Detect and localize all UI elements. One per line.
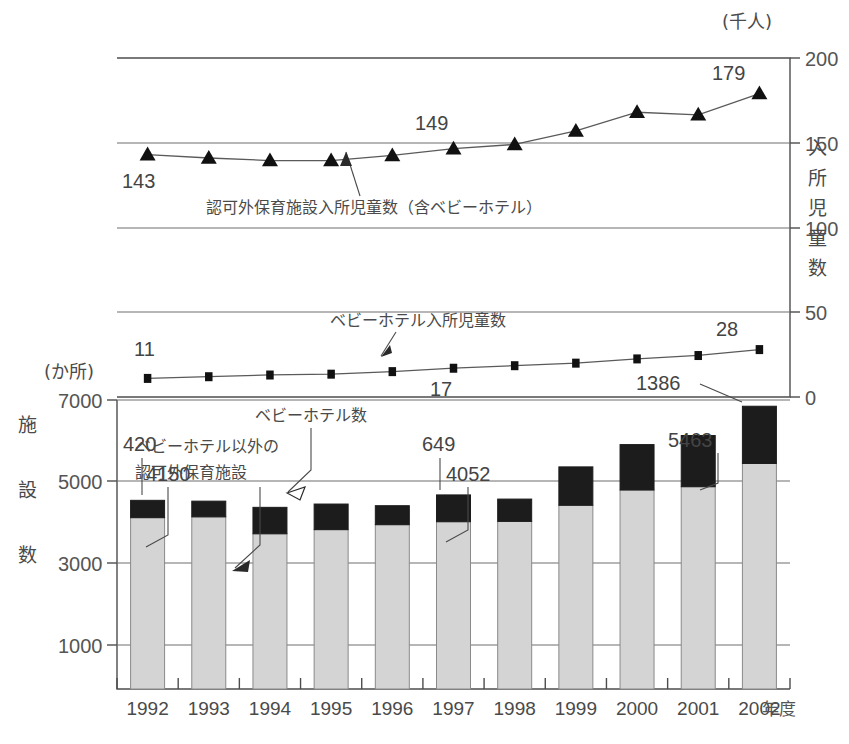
right-axis-ticks — [790, 58, 800, 397]
bar-1992 — [131, 500, 165, 689]
bar-upper-1992 — [131, 500, 165, 517]
annot-babyhotel-jidou-group: ベビーホテル入所児童数 — [330, 311, 506, 357]
x-label-1993: 1993 — [188, 698, 230, 719]
annot-babyhotel-jidou: ベビーホテル入所児童数 — [330, 311, 506, 330]
series-ninkagai-jidou — [140, 86, 768, 167]
bar-upper-1999 — [559, 467, 593, 505]
annot-babyhotel-suu: ベビーホテル数 — [255, 406, 367, 425]
left-axis-title-char-1: 設 — [18, 479, 37, 501]
x-label-2000: 2000 — [616, 698, 658, 719]
marker-ninkagai-1995 — [323, 153, 339, 167]
marker-babyhotel-1993 — [205, 372, 213, 381]
marker-ninkagai-1994 — [262, 153, 278, 167]
x-label-2001: 2001 — [677, 698, 719, 719]
bar-upper-1996 — [375, 506, 409, 525]
x-axis-suffix: 年度 — [762, 699, 796, 719]
value-label-143: 143 — [122, 170, 155, 192]
right-axis-unit: (千人) — [722, 11, 772, 32]
value-label-4052: 4052 — [446, 463, 491, 485]
bar-lower-1996 — [375, 525, 409, 689]
value-label-17: 17 — [430, 378, 452, 400]
x-label-1998: 1998 — [494, 698, 536, 719]
right-tick-50: 50 — [805, 302, 827, 324]
value-label-11: 11 — [134, 338, 155, 360]
value-label-649: 649 — [422, 433, 455, 455]
x-axis-labels: 1992199319941995199619971998199920002001… — [126, 698, 780, 719]
left-tick-7000: 7000 — [58, 390, 103, 412]
left-axis-title: 施 設 数 — [18, 414, 37, 566]
bar-1999 — [559, 467, 593, 689]
bar-upper-2000 — [620, 445, 654, 490]
marker-babyhotel-1998 — [511, 361, 519, 370]
value-label-5463: 5463 — [668, 429, 713, 451]
x-label-1996: 1996 — [371, 698, 413, 719]
bar-1997 — [437, 495, 471, 689]
value-label-149: 149 — [415, 112, 448, 134]
left-tick-1000: 1000 — [58, 635, 103, 657]
bar-lower-1998 — [498, 521, 532, 689]
annot-ninkagai-jidou: 認可外保育施設入所児童数（含ベビーホテル） — [206, 198, 542, 217]
value-label-179: 179 — [712, 62, 745, 84]
left-axis-ticks — [107, 400, 117, 645]
right-axis-title-char-3: 童 — [808, 227, 827, 249]
bar-lower-2000 — [620, 490, 654, 689]
bar-1994 — [253, 507, 287, 689]
top-panel-frame — [117, 58, 790, 397]
annot-ninkagai-jidou-group: 認可外保育施設入所児童数（含ベビーホテル） — [206, 152, 542, 217]
bar-upper-1995 — [314, 504, 348, 530]
bar-lower-2002 — [742, 463, 776, 689]
marker-ninkagai-2000 — [629, 104, 645, 118]
right-axis-title-char-4: 数 — [808, 257, 827, 279]
bar-1996 — [375, 506, 409, 689]
marker-ninkagai-2001 — [690, 107, 706, 121]
value-label-1386: 1386 — [636, 372, 681, 394]
right-tick-0: 0 — [805, 387, 816, 409]
x-label-1997: 1997 — [432, 698, 474, 719]
marker-babyhotel-2001 — [694, 351, 702, 360]
value-label-28: 28 — [716, 318, 738, 340]
bar-upper-2002 — [742, 406, 776, 463]
left-axis-title-char-2: 数 — [18, 544, 37, 566]
bar-2002 — [742, 406, 776, 689]
bar-2001 — [681, 436, 715, 689]
bar-lower-1997 — [437, 522, 471, 689]
annot-ninkagai-shisetsu-l2: 認可外保育施設 — [135, 463, 247, 482]
right-axis-title-char-2: 児 — [808, 197, 827, 219]
left-tick-5000: 5000 — [58, 471, 103, 493]
left-axis-title-char-0: 施 — [18, 414, 37, 436]
left-tick-3000: 3000 — [58, 553, 103, 575]
bar-1995 — [314, 504, 348, 689]
bar-2000 — [620, 445, 654, 689]
bar-lower-1994 — [253, 534, 287, 689]
combination-chart: 200 150 100 50 0 (千人) 入 所 児 童 数 143 149 … — [0, 0, 849, 744]
bar-lower-1992 — [131, 518, 165, 689]
right-axis-title: 入 所 児 童 数 — [808, 137, 827, 279]
marker-babyhotel-1992 — [144, 374, 152, 383]
annot-ninkagai-shisetsu-l1: ベビーホテル以外の — [135, 437, 279, 456]
marker-babyhotel-1995 — [327, 370, 335, 379]
left-axis-unit: (か所) — [44, 361, 94, 382]
bar-lower-1999 — [559, 505, 593, 689]
x-label-1992: 1992 — [126, 698, 168, 719]
bar-upper-1998 — [498, 499, 532, 521]
chart-canvas: 200 150 100 50 0 (千人) 入 所 児 童 数 143 149 … — [0, 0, 849, 744]
marker-ninkagai-1993 — [201, 150, 217, 164]
marker-babyhotel-1997 — [450, 364, 458, 373]
bar-lower-2001 — [681, 487, 715, 689]
bar-1998 — [498, 499, 532, 689]
bar-upper-1997 — [437, 495, 471, 522]
bar-lower-1995 — [314, 530, 348, 689]
marker-babyhotel-1996 — [389, 367, 397, 376]
bar-upper-1994 — [253, 507, 287, 533]
marker-ninkagai-1992 — [140, 147, 156, 161]
right-axis-title-char-1: 所 — [808, 167, 827, 189]
x-label-1999: 1999 — [555, 698, 597, 719]
right-axis-title-char-0: 入 — [808, 137, 827, 159]
marker-babyhotel-1994 — [266, 371, 274, 380]
x-label-1995: 1995 — [310, 698, 352, 719]
x-label-1994: 1994 — [249, 698, 292, 719]
marker-babyhotel-2002 — [756, 345, 764, 354]
bar-upper-1993 — [192, 501, 226, 517]
marker-babyhotel-2000 — [633, 354, 641, 363]
bar-1993 — [192, 501, 226, 689]
